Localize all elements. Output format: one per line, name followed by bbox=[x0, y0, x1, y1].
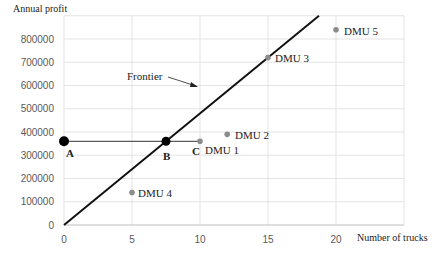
label-dmu3: DMU 3 bbox=[275, 52, 309, 64]
y-tick-label: 400000 bbox=[21, 127, 55, 138]
y-tick-label: 700000 bbox=[21, 57, 55, 68]
x-tick-label: 15 bbox=[262, 234, 274, 245]
y-tick-label: 100000 bbox=[21, 196, 55, 207]
label-dmu4: DMU 4 bbox=[138, 187, 172, 199]
y-axis-title: Annual profit bbox=[13, 3, 67, 14]
x-axis-title: Number of trucks bbox=[357, 232, 428, 243]
dmu-point bbox=[129, 190, 135, 196]
dmu-point bbox=[265, 55, 271, 61]
chart-lines bbox=[64, 16, 319, 225]
label-dmu5: DMU 5 bbox=[344, 25, 378, 37]
arrow-head-icon bbox=[190, 82, 198, 87]
x-axis-ticks: 05101520 bbox=[61, 234, 342, 245]
y-tick-label: 0 bbox=[48, 220, 54, 231]
x-tick-label: 5 bbox=[129, 234, 135, 245]
y-tick-label: 500000 bbox=[21, 103, 55, 114]
label-dmu2: DMU 2 bbox=[235, 129, 269, 141]
reference-point-a bbox=[59, 136, 69, 146]
gridlines bbox=[64, 16, 404, 225]
x-tick-label: 10 bbox=[194, 234, 206, 245]
dmu-point bbox=[197, 139, 203, 145]
point-labels: A B C DMU 1 DMU 2 DMU 3 DMU 4 DMU 5 bbox=[66, 25, 378, 199]
label-dmu1: DMU 1 bbox=[205, 144, 239, 156]
dea-frontier-chart: 0100000200000300000400000500000600000700… bbox=[0, 0, 438, 259]
dmu-point bbox=[333, 27, 339, 33]
reference-point-b bbox=[162, 137, 171, 146]
x-tick-label: 0 bbox=[61, 234, 67, 245]
y-tick-label: 600000 bbox=[21, 80, 55, 91]
frontier-label: Frontier bbox=[127, 70, 163, 82]
dmu-point bbox=[224, 132, 230, 138]
y-axis-ticks: 0100000200000300000400000500000600000700… bbox=[21, 34, 55, 231]
x-tick-label: 20 bbox=[330, 234, 342, 245]
frontier-line bbox=[64, 16, 319, 225]
y-tick-label: 200000 bbox=[21, 173, 55, 184]
y-tick-label: 800000 bbox=[21, 34, 55, 45]
y-tick-label: 300000 bbox=[21, 150, 55, 161]
label-c: C bbox=[192, 145, 200, 157]
frontier-annotation: Frontier bbox=[127, 70, 198, 87]
label-a: A bbox=[66, 147, 74, 159]
label-b: B bbox=[163, 150, 171, 162]
